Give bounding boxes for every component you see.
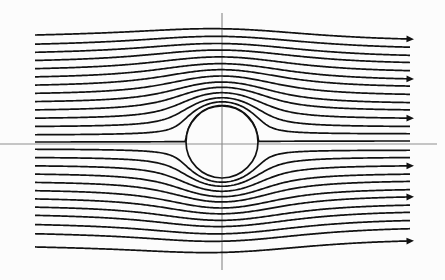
flow-direction-arrow-icon	[406, 115, 414, 122]
flow-direction-arrow-icon	[406, 36, 414, 43]
flow-diagram-figure	[0, 0, 445, 280]
cylinder-obstacle-group	[186, 106, 258, 178]
flow-direction-arrow-icon	[406, 194, 414, 201]
flow-direction-arrow-icon	[406, 75, 414, 82]
flow-direction-arrow-icon	[406, 238, 414, 245]
flow-direction-arrow-icon	[406, 163, 414, 170]
streamline-plot-canvas	[0, 0, 445, 280]
